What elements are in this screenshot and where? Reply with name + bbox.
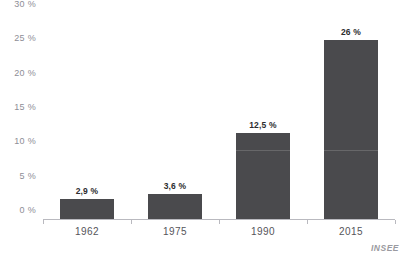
y-axis-tick-label: 5 % xyxy=(20,171,36,181)
y-axis-tick-label: 25 % xyxy=(14,33,36,43)
y-axis-tick-label: 30 % xyxy=(14,0,36,9)
bar-value-label: 26 % xyxy=(341,27,361,37)
x-axis-tick xyxy=(307,220,308,224)
bar-value-label: 3,6 % xyxy=(164,181,187,191)
x-axis-tick xyxy=(219,220,220,224)
bar-slot: 12,5 % xyxy=(219,14,307,220)
x-axis-category-label: 1975 xyxy=(131,226,219,237)
plot-area: 0 %5 %10 %15 %20 %25 %30 % 2,9 %3,6 %12,… xyxy=(43,14,395,220)
source-attribution: INSEE xyxy=(371,243,399,253)
x-axis-tick xyxy=(131,220,132,224)
bar-value-label: 12,5 % xyxy=(249,120,277,130)
bar[interactable]: 12,5 % xyxy=(236,133,290,219)
bar-series: 2,9 %3,6 %12,5 %26 % xyxy=(43,14,395,220)
bar-slot: 2,9 % xyxy=(43,14,131,220)
clipped-title xyxy=(42,0,302,2)
y-axis-tick-label: 15 % xyxy=(14,102,36,112)
x-axis-category-label: 1962 xyxy=(43,226,131,237)
bar-value-label: 2,9 % xyxy=(76,186,99,196)
bar[interactable]: 3,6 % xyxy=(148,194,202,219)
bar-slot: 3,6 % xyxy=(131,14,219,220)
y-axis-tick-label: 0 % xyxy=(20,205,36,215)
x-axis-category-label: 2015 xyxy=(307,226,395,237)
x-axis-labels: 1962197519902015 xyxy=(43,226,395,237)
x-axis-category-label: 1990 xyxy=(219,226,307,237)
bar-chart: 0 %5 %10 %15 %20 %25 %30 % 2,9 %3,6 %12,… xyxy=(0,0,411,261)
x-axis-tick xyxy=(43,220,44,224)
y-axis-tick-label: 10 % xyxy=(14,136,36,146)
x-axis-tick xyxy=(395,220,396,224)
bar-slot: 26 % xyxy=(307,14,395,220)
bar[interactable]: 2,9 % xyxy=(60,199,114,219)
bar[interactable]: 26 % xyxy=(324,40,378,219)
y-axis-tick-label: 20 % xyxy=(14,68,36,78)
